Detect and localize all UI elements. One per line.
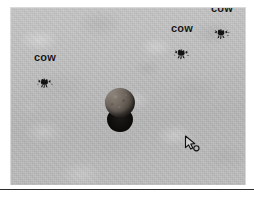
entity-label-cow: cow	[34, 52, 56, 63]
game-screenshot: cow cow	[0, 0, 254, 197]
texture-artifact	[98, 11, 100, 13]
boulder-texture	[105, 88, 135, 117]
horizontal-divider	[0, 189, 254, 190]
entity-label-cow: cow	[171, 23, 193, 34]
cow-sprite-icon	[214, 27, 230, 40]
mouse-pointer-icon	[183, 134, 201, 154]
entity-label-cow: cow	[211, 8, 233, 14]
boulder-object[interactable]	[105, 88, 135, 134]
cow-sprite-icon	[37, 76, 53, 89]
bottom-chrome-strip	[0, 185, 254, 197]
game-viewport[interactable]: cow cow	[11, 8, 245, 185]
cow-sprite-icon	[174, 47, 190, 60]
boulder-body	[105, 88, 135, 117]
